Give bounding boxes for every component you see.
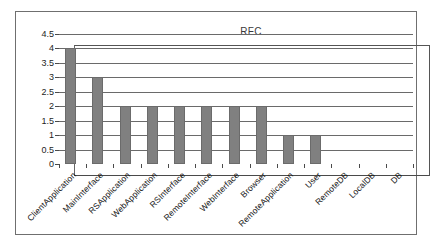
- bar: [201, 106, 212, 164]
- bar: [120, 106, 131, 164]
- bar: [283, 135, 294, 164]
- bar: [65, 48, 76, 164]
- x-axis-tick-mark: [113, 164, 114, 168]
- gridline: [59, 77, 413, 78]
- y-axis-tick-label: 0: [16, 159, 54, 169]
- gridline: [59, 63, 413, 64]
- y-axis-tick-label: 4.5: [16, 29, 54, 39]
- bar: [310, 135, 321, 164]
- y-axis-tick-label: 3: [16, 72, 54, 82]
- x-axis-tick-mark: [86, 164, 87, 168]
- bar: [174, 106, 185, 164]
- x-axis-tick-mark: [141, 164, 142, 168]
- bar: [256, 106, 267, 164]
- x-axis-tick-mark: [59, 164, 60, 168]
- x-axis-tick-mark: [359, 164, 360, 168]
- gridline: [59, 92, 413, 93]
- bar: [229, 106, 240, 164]
- y-axis-tick-label: 3.5: [16, 58, 54, 68]
- y-axis-tick-mark: [55, 135, 59, 136]
- y-axis-tick-mark: [55, 48, 59, 49]
- y-axis-tick-mark: [55, 121, 59, 122]
- y-axis-tick-mark: [55, 150, 59, 151]
- y-axis-tick-label: 1.5: [16, 116, 54, 126]
- y-axis-tick-mark: [55, 77, 59, 78]
- y-axis-tick-label: 2: [16, 101, 54, 111]
- x-axis-tick-mark: [250, 164, 251, 168]
- x-axis-tick-mark: [413, 164, 414, 168]
- x-axis-tick-mark: [304, 164, 305, 168]
- y-axis-tick-mark: [55, 34, 59, 35]
- y-axis-tick-label: 0.5: [16, 145, 54, 155]
- x-axis-tick-mark: [331, 164, 332, 168]
- y-axis-tick-label: 2.5: [16, 87, 54, 97]
- x-axis-tick-mark: [222, 164, 223, 168]
- y-axis-tick-mark: [55, 63, 59, 64]
- y-axis-tick-mark: [55, 164, 59, 165]
- y-axis-tick-mark: [55, 92, 59, 93]
- y-axis-tick-label: 4: [16, 43, 54, 53]
- x-axis-tick-mark: [277, 164, 278, 168]
- bar: [92, 77, 103, 164]
- bar: [147, 106, 158, 164]
- gridline: [59, 48, 413, 49]
- chart-title: RFC: [74, 26, 428, 37]
- chart-frame: RFC ClientApplicationMainInterfaceRSAppl…: [15, 11, 417, 235]
- x-axis-tick-mark: [195, 164, 196, 168]
- gridline: [59, 34, 413, 35]
- x-axis-tick-mark: [386, 164, 387, 168]
- x-axis-tick-mark: [168, 164, 169, 168]
- y-axis-tick-mark: [55, 106, 59, 107]
- y-axis-tick-label: 1: [16, 130, 54, 140]
